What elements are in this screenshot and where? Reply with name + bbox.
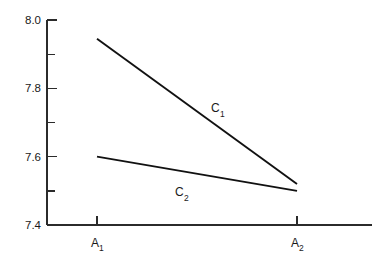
x-tick-label-a2: A 2 — [291, 236, 304, 253]
x-tick-label-a1-sub: 1 — [99, 243, 104, 253]
y-tick-label-7-6: 7.6 — [25, 151, 41, 163]
y-tick-label-7-4: 7.4 — [25, 219, 42, 231]
series-label-c1-base: C — [211, 101, 220, 115]
plot-canvas: 8.0 7.8 7.6 7.4 A 1 A 2 C 1 C 2 — [0, 0, 388, 271]
series-label-c1: C 1 — [211, 101, 225, 119]
y-tick-label-8-0: 8.0 — [25, 14, 41, 26]
series-label-c1-sub: 1 — [220, 109, 225, 119]
series-label-c2: C 2 — [175, 185, 189, 203]
series-label-c2-sub: 2 — [184, 193, 189, 203]
x-tick-label-a1: A 1 — [91, 236, 104, 253]
x-tick-label-a2-sub: 2 — [299, 243, 304, 253]
x-tick-label-a1-base: A — [91, 236, 99, 250]
x-tick-label-a2-base: A — [291, 236, 299, 250]
interaction-plot-figure: 8.0 7.8 7.6 7.4 A 1 A 2 C 1 C 2 — [0, 0, 388, 271]
series-label-c2-base: C — [175, 185, 184, 199]
y-tick-label-7-8: 7.8 — [25, 82, 41, 94]
